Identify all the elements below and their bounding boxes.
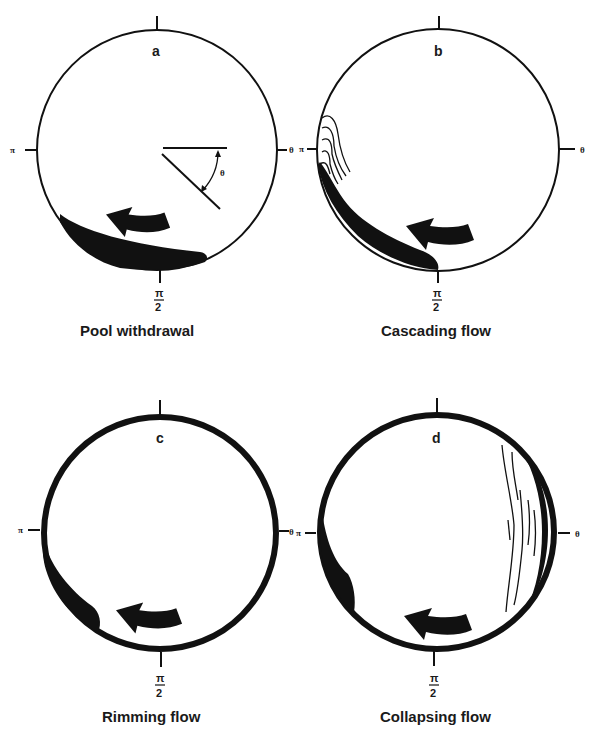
panel-d-collapsing-flow: d π θ π 2 Collapsing flow	[296, 398, 580, 725]
axis-label-zero: θ	[289, 527, 294, 537]
panel-letter: c	[156, 430, 164, 446]
panel-caption: Cascading flow	[381, 322, 491, 339]
angle-arrowhead-top	[215, 150, 221, 157]
drum-rim-layer	[320, 415, 554, 649]
axis-label-pi-half-num: π	[433, 287, 442, 299]
panel-a-pool-withdrawal: a π θ π 2 θ Pool withdrawal	[10, 16, 294, 339]
axis-label-pi-half-num: π	[155, 287, 164, 299]
axis-label-pi: π	[18, 525, 23, 535]
angle-arc	[203, 152, 218, 190]
axis-label-zero: θ	[580, 145, 585, 155]
collapse-streaks	[502, 445, 536, 612]
panel-letter: a	[152, 43, 160, 59]
rotation-arrow-icon	[404, 608, 472, 640]
bed-material	[43, 542, 100, 632]
axis-label-pi: π	[10, 145, 15, 155]
axis-label-pi-half-den: 2	[155, 301, 161, 313]
axis-label-pi: π	[299, 144, 304, 154]
panel-caption: Rimming flow	[102, 708, 201, 725]
panel-letter: b	[434, 43, 443, 59]
rotation-arrow-icon	[116, 602, 182, 633]
flow-regimes-figure: a π θ π 2 θ Pool withdrawal b π θ π 2	[0, 0, 596, 744]
panel-caption: Collapsing flow	[380, 708, 491, 725]
axis-label-zero: θ	[289, 145, 294, 155]
panel-c-rimming-flow: c π θ π 2 Rimming flow	[18, 400, 294, 725]
axis-label-zero: θ	[575, 529, 580, 539]
panel-b-cascading-flow: b π θ π 2 Cascading flow	[299, 16, 585, 339]
axis-label-pi-half-den: 2	[430, 687, 436, 699]
axis-label-pi-half-num: π	[156, 672, 165, 684]
panel-caption: Pool withdrawal	[80, 322, 194, 339]
rotation-arrow-icon	[406, 218, 474, 250]
axis-label-pi-half-num: π	[430, 672, 439, 684]
rotation-arrow-icon	[106, 207, 170, 237]
axis-label-pi: π	[296, 528, 301, 538]
axis-label-pi-half-den: 2	[156, 687, 162, 699]
angle-inclined-line	[162, 154, 220, 209]
axis-label-pi-half-den: 2	[433, 301, 439, 313]
panel-letter: d	[432, 430, 441, 446]
angle-theta-label: θ	[220, 168, 225, 178]
